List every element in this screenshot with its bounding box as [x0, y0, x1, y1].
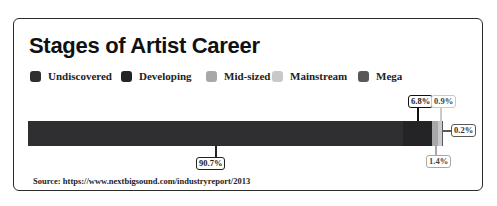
legend-item-mainstream: Mainstream	[272, 68, 347, 84]
legend-item-undiscovered: Undiscovered	[30, 68, 112, 84]
value-label-mainstream: 0.9%	[431, 95, 456, 108]
legend-label: Developing	[139, 70, 192, 82]
value-label-undiscovered: 90.7%	[196, 157, 225, 170]
legend-item-mid-sized: Mid-sized	[206, 68, 270, 84]
legend-swatch-undiscovered	[30, 71, 41, 82]
value-label-mid-sized: 1.4%	[426, 155, 451, 168]
source-citation: Source: https://www.nextbigsound.com/ind…	[33, 176, 250, 186]
legend-label: Mid-sized	[224, 70, 270, 82]
bar-segment-developing	[403, 121, 432, 146]
legend-swatch-mainstream	[272, 71, 283, 82]
legend-label: Mega	[376, 70, 402, 82]
bar-segment-mega	[442, 121, 443, 146]
legend-swatch-developing	[121, 71, 132, 82]
leader-line-mainstream	[440, 108, 442, 121]
leader-line-developing	[417, 108, 419, 121]
legend-item-developing: Developing	[121, 68, 192, 84]
value-label-mega: 0.2%	[451, 124, 476, 137]
legend-label: Mainstream	[290, 70, 347, 82]
legend-label: Undiscovered	[48, 70, 112, 82]
bar-segment-undiscovered	[28, 121, 403, 146]
legend: Undiscovered Developing Mid-sized Mainst…	[0, 68, 497, 84]
chart-title: Stages of Artist Career	[29, 33, 260, 59]
stacked-bar	[28, 121, 443, 146]
value-label-developing: 6.8%	[408, 95, 433, 108]
legend-swatch-mega	[358, 71, 369, 82]
legend-swatch-mid-sized	[206, 71, 217, 82]
legend-item-mega: Mega	[358, 68, 402, 84]
